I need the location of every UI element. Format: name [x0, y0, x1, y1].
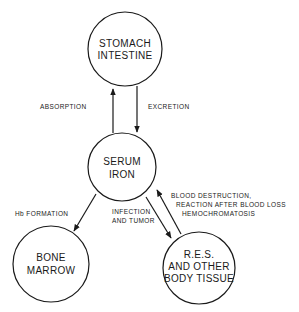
stomach-label: STOMACH	[99, 38, 151, 49]
node-stomach-intestine: STOMACH INTESTINE	[88, 12, 162, 86]
marrow-circle	[13, 226, 89, 302]
serum-circle	[88, 133, 156, 201]
bone-label: BONE	[36, 252, 66, 263]
edge-absorption: ABSORPTION	[40, 89, 113, 133]
edge-infection-tumor: INFECTION AND TUMOR	[112, 197, 171, 238]
blood-destruction-label: BLOOD DESTRUCTION,	[171, 192, 252, 199]
hb-formation-label: Hb FORMATION	[15, 210, 68, 217]
node-serum-iron: SERUM IRON	[88, 133, 156, 201]
hb-formation-arrow-icon	[74, 194, 96, 231]
stomach-circle	[88, 12, 162, 86]
iron-metabolism-diagram: STOMACH INTESTINE SERUM IRON BONE MARROW…	[0, 0, 299, 312]
node-bone-marrow: BONE MARROW	[13, 226, 89, 302]
edge-blood-destruction: BLOOD DESTRUCTION, REACTION AFTER BLOOD …	[157, 190, 286, 234]
body-tissue-label: BODY TISSUE	[164, 273, 234, 284]
res-label: R.E.S.	[184, 249, 215, 260]
intestine-label: INTESTINE	[98, 50, 153, 61]
node-res-body-tissue: R.E.S. AND OTHER BODY TISSUE	[163, 232, 235, 304]
hemochromatosis-label: HEMOCHROMATOSIS	[182, 210, 256, 217]
excretion-label: EXCRETION	[148, 103, 190, 110]
iron-label: IRON	[109, 169, 135, 180]
infection-label: INFECTION	[112, 208, 151, 215]
edge-excretion: EXCRETION	[137, 86, 190, 132]
edge-hb-formation: Hb FORMATION	[15, 194, 96, 231]
and-other-label: AND OTHER	[168, 261, 230, 272]
absorption-label: ABSORPTION	[40, 103, 87, 110]
and-tumor-label: AND TUMOR	[112, 217, 155, 224]
reaction-blood-loss-label: REACTION AFTER BLOOD LOSS	[176, 201, 286, 208]
marrow-label: MARROW	[27, 265, 76, 276]
serum-label: SERUM	[103, 156, 141, 167]
